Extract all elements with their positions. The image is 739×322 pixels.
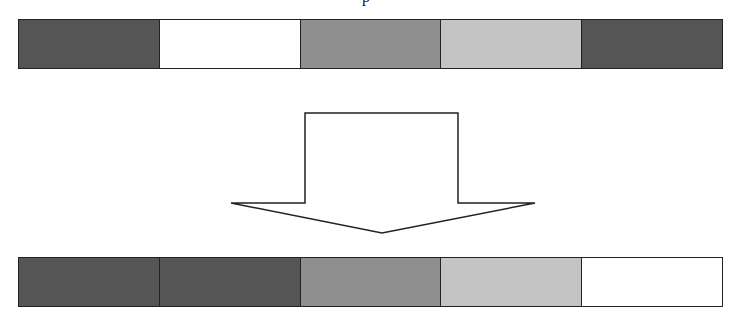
after-memory-bar [18,257,723,307]
down-arrow-shape [231,113,535,233]
after-cell-1 [19,258,160,306]
after-cell-5 [582,258,722,306]
after-cell-4 [441,258,582,306]
after-cell-2 [160,258,301,306]
after-cell-3 [301,258,442,306]
